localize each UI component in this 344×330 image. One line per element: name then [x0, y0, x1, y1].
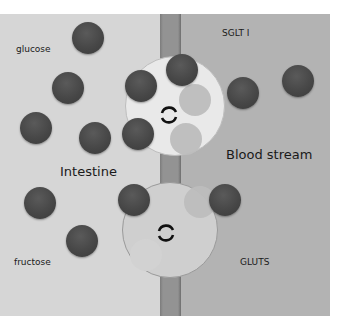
sglt1-label: SGLT I: [222, 28, 249, 38]
binding-site: [170, 123, 202, 155]
intestine-label: Intestine: [60, 164, 117, 179]
glucose-molecule: [122, 118, 154, 150]
fructose-molecule: [24, 187, 56, 219]
glucose-molecule: [282, 65, 314, 97]
fructose-label: fructose: [14, 257, 51, 267]
glucose-molecule: [227, 77, 259, 109]
glucose-molecule: [52, 72, 84, 104]
fructose-molecule: [66, 225, 98, 257]
transport-diagram: glucose Intestine fructose SGLT I Blood …: [0, 14, 330, 316]
circular-arrows-icon: [158, 104, 180, 126]
glucose-molecule: [72, 22, 104, 54]
circular-arrows-icon: [155, 222, 177, 244]
glucose-molecule: [20, 112, 52, 144]
glucose-molecule: [125, 70, 157, 102]
glucose-label: glucose: [16, 44, 51, 54]
fructose-molecule: [118, 184, 150, 216]
glucose-molecule: [79, 122, 111, 154]
binding-site: [179, 84, 211, 116]
blood-stream-label: Blood stream: [226, 147, 312, 162]
fructose-molecule: [209, 184, 241, 216]
blood-stream-region: [181, 14, 330, 316]
glucose-molecule: [166, 54, 198, 86]
gluts-label: GLUTS: [240, 257, 269, 267]
